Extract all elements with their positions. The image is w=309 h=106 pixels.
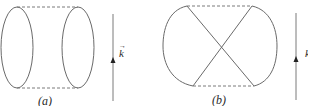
caption-a: (a) [38,94,52,106]
right-ellipse [62,7,94,88]
panel-a: k → (a) [1,7,126,106]
momentum-axis-b: k [294,13,309,100]
caption-b: (b) [212,93,226,106]
right-arc [252,6,277,86]
panel-b: k (b) [163,6,308,106]
up-arrow-icon [111,57,116,63]
left-arc [163,6,193,86]
vector-arrow-mark: → [119,42,126,50]
left-ellipse [1,7,33,88]
momentum-axis-a: k → [111,14,127,101]
cross-line-1 [187,6,254,86]
momentum-label: k [305,47,308,59]
up-arrow-icon [294,56,299,62]
cross-line-2 [193,6,252,86]
feynman-diagram-figure: k → (a) k (b) [0,0,308,106]
